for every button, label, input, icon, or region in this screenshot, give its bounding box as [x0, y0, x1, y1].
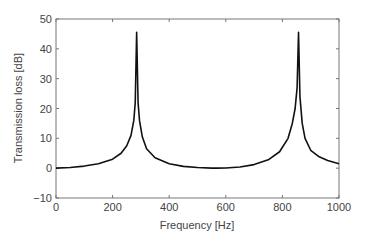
x-tick-label: 1000	[327, 201, 351, 213]
y-tick-label: 40	[40, 43, 52, 55]
y-axis-label: Transmission loss [dB]	[12, 53, 24, 163]
y-tick-label: 10	[40, 132, 52, 144]
y-tick-label: 30	[40, 73, 52, 85]
data-line	[56, 32, 339, 168]
transmission-loss-chart: 02004006008001000 −1001020304050 Frequen…	[0, 0, 369, 242]
y-tick-labels: −1001020304050	[33, 13, 52, 204]
x-tick-label: 0	[53, 201, 59, 213]
x-tick-label: 400	[160, 201, 178, 213]
x-tick-label: 600	[217, 201, 235, 213]
y-tick-label: 0	[46, 162, 52, 174]
x-axis-label: Frequency [Hz]	[160, 219, 235, 231]
plot-frame	[56, 19, 339, 198]
axis-ticks	[56, 19, 339, 198]
y-tick-label: 50	[40, 13, 52, 25]
y-tick-label: 20	[40, 103, 52, 115]
x-tick-label: 200	[103, 201, 121, 213]
x-tick-labels: 02004006008001000	[53, 201, 351, 213]
y-tick-label: −10	[33, 192, 52, 204]
x-tick-label: 800	[273, 201, 291, 213]
